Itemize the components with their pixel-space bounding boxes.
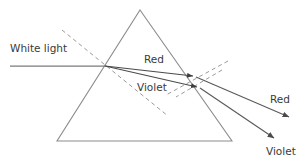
label-violet-inside-prism: Violet	[137, 81, 167, 93]
normal-lines-group	[62, 30, 228, 116]
label-white-light: White light	[10, 42, 67, 54]
labels-group: White light Red Violet Red Violet	[10, 42, 296, 157]
emergent-violet-ray	[200, 88, 274, 138]
emergent-rays-group	[196, 77, 289, 138]
prism-dispersion-figure: White light Red Violet Red Violet	[0, 0, 306, 161]
label-red-inside-prism: Red	[144, 53, 164, 65]
label-red-emergent: Red	[270, 93, 290, 105]
normal-at-entry-face	[62, 30, 168, 116]
ray-diagram-canvas: White light Red Violet Red Violet	[0, 0, 306, 161]
label-violet-emergent: Violet	[266, 145, 296, 157]
